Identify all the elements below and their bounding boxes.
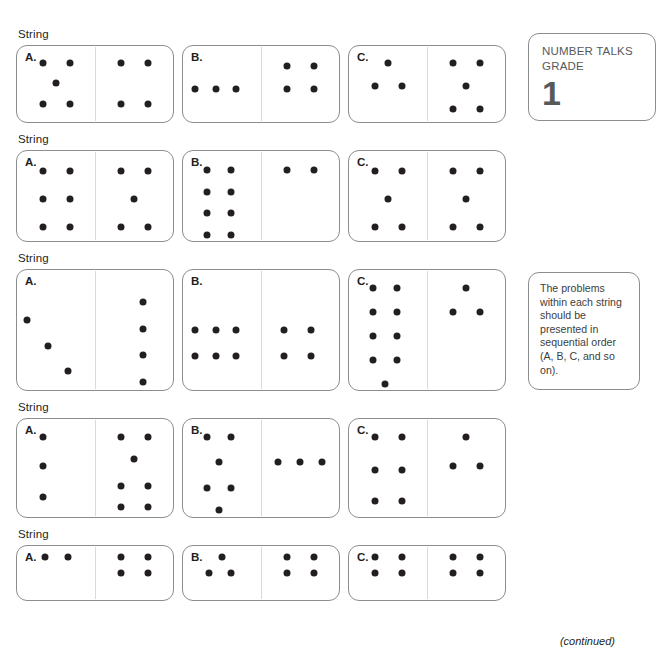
- dot: [205, 570, 212, 577]
- dot-card[interactable]: C.: [348, 418, 506, 518]
- dot: [311, 553, 318, 560]
- dot: [449, 553, 456, 560]
- dot-card[interactable]: A.: [16, 545, 174, 601]
- card-half-right: [261, 46, 339, 122]
- dot: [477, 59, 484, 66]
- dot: [477, 309, 484, 316]
- cards-row: A.B.C.: [16, 45, 508, 123]
- dot: [307, 327, 314, 334]
- dot: [477, 167, 484, 174]
- dot: [204, 188, 211, 195]
- dot: [283, 553, 290, 560]
- dot-card[interactable]: B.: [182, 545, 340, 601]
- dot: [39, 167, 46, 174]
- dot: [140, 299, 147, 306]
- dot: [371, 83, 378, 90]
- dot: [24, 317, 31, 324]
- dot: [228, 231, 235, 238]
- dot: [39, 494, 46, 501]
- dot: [67, 59, 74, 66]
- card-half-left: [183, 151, 261, 241]
- dot-card[interactable]: C.: [348, 150, 506, 242]
- dot-card[interactable]: B.: [182, 269, 340, 391]
- dot: [215, 507, 222, 514]
- card-half-right: [427, 270, 505, 390]
- string-block: StringA.B.C.: [16, 133, 508, 242]
- dot: [281, 327, 288, 334]
- card-half-left: [17, 546, 95, 600]
- card-half-left: [349, 46, 427, 122]
- dot: [145, 167, 152, 174]
- cards-row: A.B.C.: [16, 418, 508, 518]
- string-block: StringA.B.C.: [16, 528, 508, 601]
- strings-column: StringA.B.C.StringA.B.C.StringA.B.C.Stri…: [16, 28, 508, 611]
- dot: [311, 62, 318, 69]
- sequential-order-note: The problems within each string should b…: [528, 272, 640, 390]
- dot: [399, 570, 406, 577]
- dot: [283, 85, 290, 92]
- dot-card[interactable]: C.: [348, 45, 506, 123]
- dot: [477, 553, 484, 560]
- dot: [449, 463, 456, 470]
- dot: [117, 570, 124, 577]
- card-half-left: [183, 546, 261, 600]
- dot: [204, 210, 211, 217]
- dot: [212, 85, 219, 92]
- dot-card[interactable]: A.: [16, 45, 174, 123]
- dot-card[interactable]: C.: [348, 269, 506, 391]
- dot: [212, 327, 219, 334]
- dot: [117, 100, 124, 107]
- dot: [371, 466, 378, 473]
- dot: [67, 195, 74, 202]
- dot: [145, 553, 152, 560]
- dot-card[interactable]: A.: [16, 150, 174, 242]
- dot: [371, 498, 378, 505]
- dot: [192, 85, 199, 92]
- dot: [117, 433, 124, 440]
- dot-card[interactable]: A.: [16, 269, 174, 391]
- dot: [449, 167, 456, 174]
- string-label: String: [18, 133, 508, 146]
- card-half-left: [349, 270, 427, 390]
- dot: [53, 80, 60, 87]
- dot: [463, 83, 470, 90]
- dot: [399, 498, 406, 505]
- card-half-right: [261, 546, 339, 600]
- dot: [370, 333, 377, 340]
- dot: [399, 433, 406, 440]
- dot: [394, 333, 401, 340]
- dot-card[interactable]: B.: [182, 45, 340, 123]
- dot: [192, 353, 199, 360]
- dot-card[interactable]: A.: [16, 418, 174, 518]
- dot: [228, 570, 235, 577]
- dot: [117, 223, 124, 230]
- dot: [449, 59, 456, 66]
- dot-card[interactable]: B.: [182, 418, 340, 518]
- card-half-right: [95, 419, 173, 517]
- dot: [145, 433, 152, 440]
- dot: [192, 327, 199, 334]
- dot: [39, 223, 46, 230]
- dot: [449, 223, 456, 230]
- dot: [65, 553, 72, 560]
- dot: [145, 570, 152, 577]
- dot: [145, 504, 152, 511]
- dot: [399, 553, 406, 560]
- card-half-left: [17, 46, 95, 122]
- dot-card[interactable]: C.: [348, 545, 506, 601]
- dot: [228, 433, 235, 440]
- dot: [233, 353, 240, 360]
- badge-title: NUMBER TALKS GRADE: [542, 44, 655, 74]
- card-half-left: [17, 270, 95, 390]
- dot-card[interactable]: B.: [182, 150, 340, 242]
- dot: [65, 367, 72, 374]
- cards-row: A.B.C.: [16, 150, 508, 242]
- dot: [463, 195, 470, 202]
- number-talks-grade-badge: NUMBER TALKS GRADE 1: [528, 33, 656, 121]
- dot: [399, 466, 406, 473]
- dot: [370, 285, 377, 292]
- card-half-left: [183, 46, 261, 122]
- dot: [131, 456, 138, 463]
- card-half-right: [427, 419, 505, 517]
- dot: [399, 223, 406, 230]
